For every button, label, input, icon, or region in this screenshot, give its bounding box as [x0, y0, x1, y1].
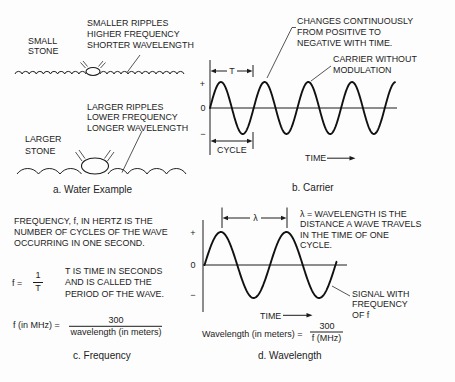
frequency-definition-line-1: FREQUENCY, f, IN HERTZ IS THE [14, 216, 153, 226]
frequency-definition-line-2: NUMBER OF CYCLES OF THE WAVE [14, 227, 168, 237]
caption-carrier: b. Carrier [292, 182, 334, 193]
formula2-denominator: wavelength (in meters) [69, 327, 161, 337]
carrier-time-label: TIME [305, 153, 326, 163]
small-stone-icon [86, 68, 100, 76]
carrier-note-line-1: CARRIER WITHOUT [333, 54, 417, 64]
carrier-leader-line [311, 66, 331, 81]
panel-carrier: CHANGES CONTINUOUSLY FROM POSITIVE TO NE… [200, 16, 418, 194]
signal-note-line-2: FREQUENCY [352, 299, 408, 309]
wavelength-axis-zero: 0 [190, 260, 195, 270]
changes-note-line-2: FROM POSITIVE TO [297, 27, 381, 37]
carrier-axis-minus: − [200, 129, 205, 139]
carrier-note-line-2: MODULATION [333, 65, 392, 75]
formula2-lhs: f (in MHz) = [13, 320, 60, 330]
panel-frequency: FREQUENCY, f, IN HERTZ IS THE NUMBER OF … [12, 216, 168, 361]
changes-leader-line [267, 28, 296, 79]
wavelength-definition-line-4: CYCLE. [300, 240, 332, 250]
period-note-line-1: T IS TIME IN SECONDS [65, 266, 162, 276]
carrier-time-arrow-icon [327, 156, 356, 160]
large-stone-label-line-2: STONE [25, 146, 55, 156]
small-ripples-right [100, 71, 184, 74]
changes-note-line-3: NEGATIVE WITH TIME. [297, 38, 392, 48]
small-ripples-note-line-1: SMALLER RIPPLES [87, 18, 168, 28]
signal-note-line-1: SIGNAL WITH [352, 289, 409, 299]
formula-wavelength-denominator: f (MHz) [312, 333, 342, 343]
formula1-denominator: T [35, 283, 41, 293]
small-stone-label-line-2: STONE [28, 46, 58, 56]
signal-leader-line [332, 286, 350, 296]
small-ripples-left [15, 71, 86, 74]
caption-wavelength: d. Wavelength [258, 350, 322, 361]
wavelength-definition-line-3: IN THE TIME OF ONE [300, 230, 389, 240]
formula-wavelength-lhs: Wavelength (in meters) = [202, 329, 302, 339]
small-ripples-leader-line [127, 55, 140, 73]
wave-concepts-figure: SMALLER RIPPLES HIGHER FREQUENCY SHORTER… [0, 0, 455, 382]
wavelength-axis-plus: + [190, 228, 195, 238]
large-stone-label-line-1: LARGER [25, 134, 62, 144]
formula1-numerator: 1 [35, 270, 40, 280]
small-stone-label-line-1: SMALL [28, 36, 57, 46]
large-ripples-note-line-3: LONGER WAVELENGTH [87, 123, 188, 133]
large-ripples-leader-line [122, 131, 142, 173]
wavelength-definition-line-1: λ = WAVELENGTH IS THE [300, 209, 407, 219]
period-note-line-3: PERIOD OF THE WAVE. [65, 289, 164, 299]
small-ripples-note-line-2: HIGHER FREQUENCY [87, 29, 180, 39]
wavelength-time-label: TIME [260, 311, 281, 321]
frequency-definition-line-3: OCCURRING IN ONE SECOND. [14, 238, 145, 248]
wavelength-time-arrow-icon [283, 313, 313, 317]
carrier-axis-plus: + [200, 79, 205, 89]
changes-note-line-1: CHANGES CONTINUOUSLY [297, 16, 413, 26]
period-note-line-2: AND IS CALLED THE [65, 277, 152, 287]
large-ripples-left [17, 169, 82, 174]
carrier-axis-zero: 0 [200, 103, 205, 113]
large-stone-icon [82, 158, 109, 174]
panel-wavelength: λ = WAVELENGTH IS THE DISTANCE A WAVE TR… [190, 208, 421, 362]
formula-wavelength-meters: Wavelength (in meters) = 300 f (MHz) [202, 321, 343, 343]
wavelength-axis-minus: − [190, 290, 195, 300]
formula-f-equals-one-over-t: f = 1 T [12, 270, 43, 293]
large-ripples-note-line-1: LARGER RIPPLES [87, 102, 164, 112]
wavelength-definition-line-2: DISTANCE A WAVE TRAVELS [300, 219, 421, 229]
small-ripples-note-line-3: SHORTER WAVELENGTH [87, 40, 194, 50]
formula-frequency-mhz: f (in MHz) = 300 wavelength (in meters) [13, 315, 162, 337]
caption-frequency: c. Frequency [73, 350, 131, 361]
caption-water-example: a. Water Example [53, 184, 133, 195]
period-label: T [229, 66, 235, 76]
formula1-lhs: f = [12, 278, 22, 288]
formula-wavelength-numerator: 300 [319, 321, 334, 331]
large-ripples-note-line-2: LOWER FREQUENCY [87, 112, 178, 122]
large-ripples-right [108, 168, 186, 174]
panel-water-example: SMALLER RIPPLES HIGHER FREQUENCY SHORTER… [15, 18, 194, 196]
signal-note-line-3: OF f [352, 310, 370, 320]
lambda-label: λ [253, 213, 258, 223]
cycle-label: CYCLE [217, 145, 247, 155]
formula2-numerator: 300 [108, 315, 123, 325]
